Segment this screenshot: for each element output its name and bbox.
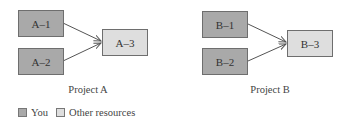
node-label: A–1 (32, 18, 51, 30)
legend-label-other: Other resources (69, 107, 135, 118)
legend-label-you: You (31, 107, 48, 118)
node-b2: B–2 (202, 48, 248, 75)
node-a2: A–2 (18, 48, 64, 75)
node-label: A–2 (32, 56, 51, 68)
arrow-b1-b3 (248, 24, 286, 42)
node-label: B–3 (301, 38, 319, 50)
legend: You Other resources (18, 107, 135, 118)
legend-swatch-you (18, 108, 27, 117)
node-b1: B–1 (202, 11, 248, 38)
project-a-caption: Project A (28, 84, 148, 95)
project-b-caption: Project B (210, 84, 330, 95)
node-b3: B–3 (287, 30, 333, 57)
node-label: A–3 (116, 37, 135, 49)
node-label: B–1 (216, 19, 234, 31)
arrow-b2-b3 (248, 44, 286, 61)
node-a3: A–3 (102, 29, 148, 56)
legend-swatch-other (56, 108, 65, 117)
node-label: B–2 (216, 56, 234, 68)
node-a1: A–1 (18, 10, 64, 37)
arrow-a1-a3 (63, 23, 101, 41)
arrow-a2-a3 (63, 43, 101, 61)
